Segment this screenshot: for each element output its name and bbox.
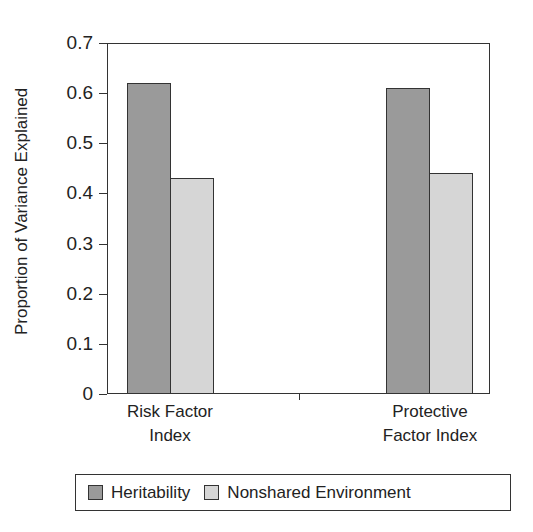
y-tick-label: 0.5 [43, 133, 93, 153]
y-tick [99, 93, 107, 94]
y-tick-label: 0.3 [43, 234, 93, 254]
x-label-risk: Risk Factor Index [90, 400, 250, 448]
legend-label-heritability: Heritability [111, 483, 190, 503]
legend-swatch-heritability [88, 485, 103, 500]
y-tick-label: 0.1 [43, 334, 93, 354]
bar-heritability-1 [386, 88, 430, 394]
y-tick-label: 0.7 [43, 33, 93, 53]
legend-swatch-nonshared [204, 485, 219, 500]
bar-nonshared-environment-1 [429, 173, 473, 394]
bar-heritability-0 [127, 83, 171, 394]
y-tick [99, 294, 107, 295]
y-tick-label: 0 [43, 384, 93, 404]
bar-nonshared-environment-0 [170, 178, 214, 394]
y-tick [99, 344, 107, 345]
y-tick [99, 43, 107, 44]
y-tick-label: 0.4 [43, 183, 93, 203]
y-tick [99, 193, 107, 194]
legend-label-nonshared: Nonshared Environment [227, 483, 410, 503]
x-axis-tick [299, 394, 300, 400]
y-axis-title: Proportion of Variance Explained [12, 95, 32, 335]
y-tick-label: 0.2 [43, 284, 93, 304]
y-tick [99, 143, 107, 144]
legend: Heritability Nonshared Environment [75, 474, 511, 511]
y-tick [99, 244, 107, 245]
x-label-protective: Protective Factor Index [350, 400, 510, 448]
y-tick [99, 394, 107, 395]
y-tick-label: 0.6 [43, 83, 93, 103]
